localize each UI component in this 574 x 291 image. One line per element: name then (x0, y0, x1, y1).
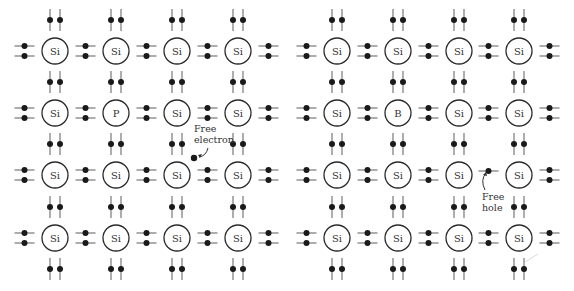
valence-electron (47, 141, 53, 147)
valence-electron (400, 17, 406, 23)
atom-symbol: Si (172, 46, 182, 57)
valence-electron (144, 177, 150, 183)
atom-symbol: Si (111, 46, 121, 57)
atom-symbol: Si (454, 46, 464, 57)
valence-electron (47, 79, 53, 85)
covalent-bond-vertical (451, 9, 467, 31)
p-type-lattice-panel: SiSiSiSiSiBSiSiSiSiSiSiSiSiSiSiFreehole (297, 9, 560, 280)
atom-si: Si (225, 38, 251, 64)
valence-electron (230, 204, 236, 210)
covalent-bond-horizontal (358, 167, 378, 183)
atom-si: Si (385, 225, 411, 251)
valence-electron (400, 79, 406, 85)
valence-electron (230, 266, 236, 272)
covalent-bond-horizontal (137, 105, 157, 121)
free-electron (191, 155, 197, 161)
atom-symbol: Si (514, 46, 524, 57)
atom-symbol: Si (172, 233, 182, 244)
valence-electron (83, 230, 89, 236)
covalent-bond-horizontal (358, 230, 378, 246)
covalent-bond-vertical (451, 258, 467, 280)
valence-electron (339, 266, 345, 272)
atom-si: Si (103, 162, 129, 188)
valence-electron (22, 115, 28, 121)
atom-si: Si (506, 100, 532, 126)
valence-electron (400, 266, 406, 272)
valence-electron (511, 17, 517, 23)
covalent-bond-horizontal (259, 230, 279, 246)
valence-electron (390, 266, 396, 272)
atom-si: Si (446, 162, 472, 188)
valence-electron (266, 177, 272, 183)
atom-symbol: Si (514, 170, 524, 181)
valence-electron (240, 204, 246, 210)
valence-electron (22, 230, 28, 236)
valence-electron (304, 115, 310, 121)
valence-electron (144, 53, 150, 59)
valence-electron (486, 168, 492, 174)
valence-electron (451, 204, 457, 210)
annotation-label: hole (482, 202, 503, 213)
atom-symbol: Si (233, 170, 243, 181)
valence-electron (118, 266, 124, 272)
valence-electron (83, 115, 89, 121)
atom-si: Si (506, 162, 532, 188)
valence-electron (205, 230, 211, 236)
atom-p: P (103, 100, 129, 126)
covalent-bond-horizontal (259, 167, 279, 183)
valence-electron (521, 17, 527, 23)
valence-electron (144, 240, 150, 246)
atom-symbol: Si (111, 233, 121, 244)
covalent-bond-horizontal (540, 105, 560, 121)
valence-electron (486, 230, 492, 236)
valence-electron (47, 266, 53, 272)
valence-electron (144, 167, 150, 173)
valence-electron (329, 79, 335, 85)
atom-symbol: Si (50, 108, 60, 119)
valence-electron (390, 204, 396, 210)
valence-electron (83, 53, 89, 59)
valence-electron (266, 167, 272, 173)
valence-electron (57, 141, 63, 147)
atom-si: Si (446, 100, 472, 126)
valence-electron (108, 266, 114, 272)
covalent-bond-vertical (451, 133, 467, 155)
valence-electron (339, 79, 345, 85)
covalent-bond-horizontal (198, 43, 218, 59)
atom-symbol: Si (454, 108, 464, 119)
covalent-bond-vertical (108, 133, 124, 155)
atom-symbol: Si (50, 170, 60, 181)
atom-si: Si (324, 225, 350, 251)
covalent-bond-vertical (511, 133, 527, 155)
valence-electron (118, 141, 124, 147)
atom-si: Si (42, 162, 68, 188)
atom-si: Si (42, 38, 68, 64)
valence-electron (486, 43, 492, 49)
valence-electron (486, 105, 492, 111)
covalent-bond-horizontal (137, 43, 157, 59)
valence-electron (511, 79, 517, 85)
valence-electron (426, 167, 432, 173)
annotation-label: Free (194, 123, 217, 134)
atom-b: B (385, 100, 411, 126)
valence-electron (451, 266, 457, 272)
covalent-bond-vertical (108, 196, 124, 218)
covalent-bond-horizontal (540, 43, 560, 59)
covalent-bond-vertical (329, 133, 345, 155)
scan-artifact (525, 254, 538, 262)
atom-symbol: Si (111, 170, 121, 181)
covalent-bond-horizontal (259, 105, 279, 121)
valence-electron (266, 115, 272, 121)
valence-electron (339, 17, 345, 23)
valence-electron (426, 177, 432, 183)
valence-electron (426, 240, 432, 246)
covalent-bond-horizontal (76, 43, 96, 59)
valence-electron (83, 177, 89, 183)
valence-electron (547, 43, 553, 49)
covalent-bond-horizontal (479, 230, 499, 246)
valence-electron (266, 43, 272, 49)
valence-electron (57, 17, 63, 23)
atom-si: Si (324, 162, 350, 188)
covalent-bond-horizontal (137, 167, 157, 183)
valence-electron (169, 141, 175, 147)
